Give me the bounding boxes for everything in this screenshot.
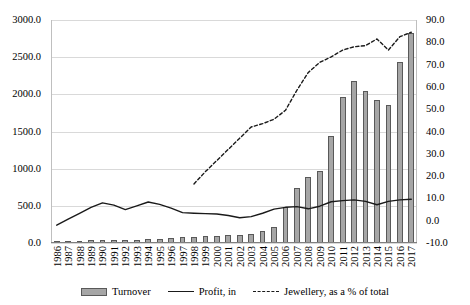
category-axis-tick-labels: 1986198719881989199019911992199319941995… bbox=[51, 246, 417, 290]
category-tick: 2000 bbox=[212, 246, 223, 267]
category-tick: 2005 bbox=[269, 246, 280, 267]
category-tick: 1998 bbox=[189, 246, 200, 267]
plot-area bbox=[51, 20, 417, 243]
category-tick: 1999 bbox=[200, 246, 211, 267]
left-axis-tick: 1000.0 bbox=[12, 164, 41, 175]
right-axis-tick: 50.0 bbox=[426, 104, 444, 115]
right-axis-tick: -10.0 bbox=[426, 238, 448, 249]
right-axis-tick: 80.0 bbox=[426, 37, 444, 48]
category-tick: 1993 bbox=[132, 246, 143, 267]
category-tick: 1992 bbox=[120, 246, 131, 267]
category-tick: 2016 bbox=[395, 246, 406, 267]
category-tick: 2014 bbox=[372, 246, 383, 267]
line-series-overlay bbox=[51, 20, 417, 243]
left-axis-tick: 500.0 bbox=[17, 201, 41, 212]
right-axis-tick: 70.0 bbox=[426, 60, 444, 71]
category-tick: 1990 bbox=[97, 246, 108, 267]
category-tick: 1986 bbox=[52, 246, 63, 267]
right-axis-tick: 10.0 bbox=[426, 193, 444, 204]
left-axis-tick: 1500.0 bbox=[12, 127, 41, 138]
category-tick: 1988 bbox=[75, 246, 86, 267]
left-axis-tick: 2000.0 bbox=[12, 89, 41, 100]
bar-swatch-icon bbox=[81, 288, 107, 296]
category-tick: 2001 bbox=[223, 246, 234, 267]
category-tick: 2002 bbox=[235, 246, 246, 267]
category-tick: 1991 bbox=[109, 246, 120, 267]
category-axis-line bbox=[51, 242, 417, 243]
category-tick: 2003 bbox=[246, 246, 257, 267]
right-axis-tick: 30.0 bbox=[426, 149, 444, 160]
category-tick: 2008 bbox=[303, 246, 314, 267]
legend-item-turnover: Turnover bbox=[81, 286, 151, 297]
legend-item-jewellery: Jewellery, as a % of total bbox=[253, 286, 389, 297]
left-axis-tick: 2500.0 bbox=[12, 52, 41, 63]
category-tick: 1995 bbox=[155, 246, 166, 267]
right-axis-tick: 60.0 bbox=[426, 82, 444, 93]
category-tick: 1989 bbox=[86, 246, 97, 267]
left-axis-tick: 3000.0 bbox=[12, 15, 41, 26]
profit-line bbox=[57, 199, 412, 225]
gridline bbox=[51, 243, 417, 244]
category-tick: 2011 bbox=[338, 246, 349, 267]
category-tick: 2006 bbox=[280, 246, 291, 267]
category-tick: 2015 bbox=[383, 246, 394, 267]
category-tick: 2004 bbox=[258, 246, 269, 267]
left-axis-tick: 0.0 bbox=[28, 238, 41, 249]
category-tick: 2010 bbox=[326, 246, 337, 267]
legend-label-turnover: Turnover bbox=[112, 286, 151, 297]
jewellery-line bbox=[194, 32, 411, 184]
category-tick: 2009 bbox=[315, 246, 326, 267]
chart-container: 0.0500.01000.01500.02000.02500.03000.0 -… bbox=[0, 0, 470, 305]
category-tick: 2017 bbox=[406, 246, 417, 267]
category-tick: 1997 bbox=[178, 246, 189, 267]
right-axis-tick: 40.0 bbox=[426, 127, 444, 138]
solid-line-icon bbox=[168, 291, 194, 292]
dashed-line-icon bbox=[253, 291, 279, 292]
right-axis-tick: 20.0 bbox=[426, 171, 444, 182]
left-axis-tick-labels: 0.0500.01000.01500.02000.02500.03000.0 bbox=[0, 20, 46, 243]
right-axis-tick-labels: -10.00.010.020.030.040.050.060.070.080.0… bbox=[420, 20, 468, 243]
right-axis-tick: 0.0 bbox=[426, 216, 439, 227]
category-tick: 2007 bbox=[292, 246, 303, 267]
category-tick: 1987 bbox=[63, 246, 74, 267]
legend-item-profit: Profit, in bbox=[168, 286, 236, 297]
category-tick: 1994 bbox=[143, 246, 154, 267]
chart-legend: Turnover Profit, in Jewellery, as a % of… bbox=[0, 286, 470, 297]
legend-label-profit: Profit, in bbox=[199, 286, 236, 297]
right-axis-tick: 90.0 bbox=[426, 15, 444, 26]
category-tick: 2013 bbox=[361, 246, 372, 267]
category-tick: 1996 bbox=[166, 246, 177, 267]
legend-label-jewellery: Jewellery, as a % of total bbox=[284, 286, 389, 297]
category-tick: 2012 bbox=[349, 246, 360, 267]
